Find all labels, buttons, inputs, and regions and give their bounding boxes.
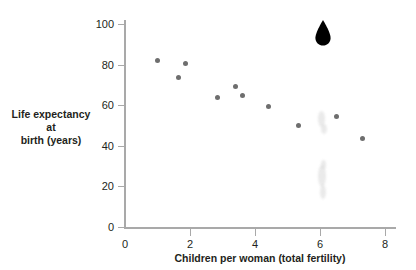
data-point <box>155 58 160 63</box>
data-point <box>176 75 181 80</box>
x-tick-label: 4 <box>243 239 267 250</box>
y-tick-mark <box>118 146 125 147</box>
y-tick-mark <box>118 186 125 187</box>
y-axis-title-line2: birth (years) <box>21 134 82 146</box>
teardrop-pin-marker <box>315 20 331 46</box>
y-axis-line <box>124 20 126 229</box>
data-point <box>360 136 365 141</box>
y-tick-label: 0 <box>88 222 114 233</box>
y-tick-label: 20 <box>88 181 114 192</box>
x-tick-mark <box>385 229 386 236</box>
data-point <box>233 84 238 89</box>
x-tick-mark <box>320 229 321 236</box>
x-tick-label: 6 <box>308 239 332 250</box>
y-tick-mark <box>118 105 125 106</box>
data-point <box>266 104 271 109</box>
data-point <box>215 95 220 100</box>
y-axis-title-line1: Life expectancy at <box>12 108 91 133</box>
x-tick-label: 8 <box>373 239 397 250</box>
data-point <box>334 114 339 119</box>
y-tick-label: 80 <box>88 60 114 71</box>
x-tick-label: 0 <box>113 239 137 250</box>
x-tick-mark <box>190 229 191 236</box>
scan-artifact <box>320 185 326 199</box>
y-tick-label: 100 <box>88 19 114 30</box>
data-point <box>296 123 301 128</box>
scan-artifact <box>321 160 326 169</box>
x-tick-label: 2 <box>178 239 202 250</box>
scan-artifact <box>321 124 327 134</box>
x-axis-line <box>124 227 396 229</box>
data-point <box>240 93 245 98</box>
scatter-plot-figure: 02040608010002468 Life expectancy at bir… <box>0 0 416 270</box>
y-tick-mark <box>118 24 125 25</box>
y-tick-mark <box>118 65 125 66</box>
data-point <box>183 61 188 66</box>
x-tick-mark <box>255 229 256 236</box>
y-axis-title: Life expectancy at birth (years) <box>8 108 94 147</box>
y-tick-mark <box>118 227 125 228</box>
x-axis-title: Children per woman (total fertility) <box>120 252 400 264</box>
